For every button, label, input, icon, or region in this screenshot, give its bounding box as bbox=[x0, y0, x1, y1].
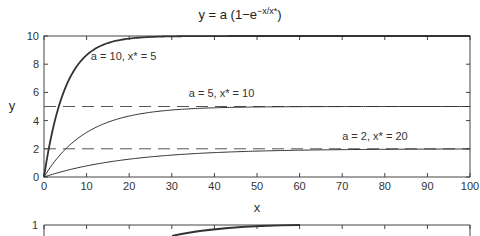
curve-2 bbox=[44, 149, 470, 177]
x-tick-label: 10 bbox=[80, 180, 92, 192]
chart-canvas: 01020304050607080901000246810xya = 10, x… bbox=[0, 0, 480, 236]
x-tick-label: 30 bbox=[166, 180, 178, 192]
curve-annotation: a = 2, x* = 20 bbox=[342, 130, 407, 142]
x-tick-label: 80 bbox=[379, 180, 391, 192]
y-tick-label: 0 bbox=[33, 171, 39, 183]
y-axis-label: y bbox=[9, 98, 16, 113]
curve-annotation: a = 5, x* = 10 bbox=[189, 87, 254, 99]
y-tick-label: 2 bbox=[33, 143, 39, 155]
x-tick-label: 50 bbox=[251, 180, 263, 192]
y-tick-label: 10 bbox=[27, 30, 39, 42]
x-tick-label: 60 bbox=[293, 180, 305, 192]
y-tick-label: 6 bbox=[33, 86, 39, 98]
x-axis-label: x bbox=[254, 200, 261, 215]
x-tick-label: 100 bbox=[461, 180, 479, 192]
y-tick-label: 8 bbox=[33, 58, 39, 70]
curve-annotation: a = 10, x* = 5 bbox=[91, 50, 156, 62]
x-tick-label: 70 bbox=[336, 180, 348, 192]
x-tick-label: 0 bbox=[41, 180, 47, 192]
x-tick-label: 90 bbox=[421, 180, 433, 192]
second-y-tick-label: 1 bbox=[32, 219, 38, 231]
second-curve bbox=[172, 225, 300, 236]
x-tick-label: 40 bbox=[208, 180, 220, 192]
x-tick-label: 20 bbox=[123, 180, 135, 192]
y-tick-label: 4 bbox=[33, 115, 39, 127]
